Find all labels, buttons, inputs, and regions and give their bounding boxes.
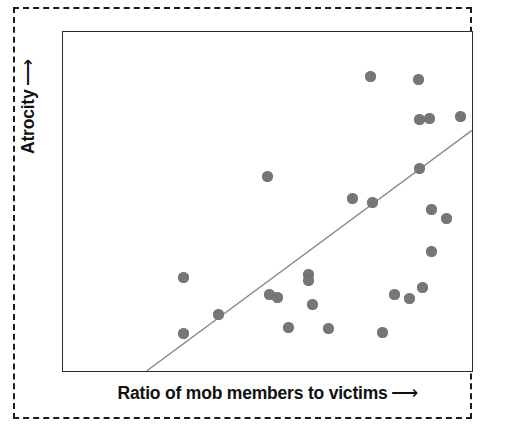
data-point (455, 111, 466, 122)
figure-root: Ratio of mob members to victims⟶ Atrocit… (0, 0, 516, 435)
data-point (426, 246, 437, 257)
data-point (367, 197, 378, 208)
data-point (307, 299, 318, 310)
data-point (262, 171, 273, 182)
data-point (323, 323, 334, 334)
plot-canvas (63, 32, 472, 371)
y-axis-label-text: Atrocity (18, 89, 38, 154)
data-point (213, 309, 224, 320)
data-point (389, 289, 400, 300)
data-point (413, 74, 424, 85)
x-axis-title: Ratio of mob members to victims⟶ (62, 381, 473, 404)
data-point (347, 193, 358, 204)
y-axis-title: Atrocity⟶ (16, 0, 50, 154)
data-point (178, 328, 189, 339)
data-point (414, 163, 425, 174)
plot-area (62, 31, 473, 372)
data-point (424, 113, 435, 124)
data-point (441, 213, 452, 224)
data-point (178, 272, 189, 283)
data-point (365, 71, 376, 82)
data-point (272, 292, 283, 303)
data-point (417, 282, 428, 293)
y-axis-arrow-icon: ⟶ (17, 60, 38, 90)
x-axis-label-text: Ratio of mob members to victims (118, 383, 388, 403)
data-point (426, 204, 437, 215)
data-point (303, 275, 314, 286)
data-point (377, 327, 388, 338)
side-credit-text (498, 366, 510, 428)
data-point (404, 293, 415, 304)
data-point (283, 322, 294, 333)
data-point (414, 114, 425, 125)
x-axis-arrow-icon: ⟶ (388, 382, 418, 403)
